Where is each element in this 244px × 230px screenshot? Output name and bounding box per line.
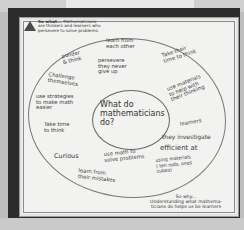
note-use-strategies: use strategies to make math easier xyxy=(36,94,74,111)
anchor-chart-poster: So what... Mathematicians are thinkers a… xyxy=(19,17,239,217)
background-wall-bottom xyxy=(0,218,244,230)
note-efficient: efficient at xyxy=(160,146,198,152)
triangle-logo-icon xyxy=(24,21,36,31)
footer-line3: ticians do helps us be learners xyxy=(138,204,234,209)
note-learn-from-each-other: learn from each other xyxy=(106,38,135,49)
center-question: What do mathematicians do? xyxy=(100,100,166,127)
note-persevere: persevere they never give up xyxy=(98,58,127,75)
note-take-time-to-think: Take time to think xyxy=(44,122,69,133)
note-they-investigate: they investigate xyxy=(162,134,211,140)
note-curious: Curious xyxy=(54,154,79,160)
poster-header: So what... Mathematicians are thinkers a… xyxy=(38,20,158,33)
poster-footer: So why... Understanding what mathema- ti… xyxy=(138,194,234,210)
header-line3: persevere to solve problems. xyxy=(38,28,99,33)
